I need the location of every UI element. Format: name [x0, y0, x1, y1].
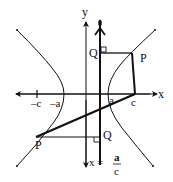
label-x-axis: x	[158, 87, 164, 101]
label-a: a	[109, 94, 114, 106]
right-angle-mark-upper	[101, 47, 106, 52]
label-P-lower: P	[35, 138, 42, 152]
label-neg-c: –c	[30, 97, 42, 109]
label-directrix-den: c	[114, 165, 119, 177]
label-c: c	[131, 96, 136, 108]
label-Q-upper: Q	[89, 46, 98, 60]
right-angle-mark-lower	[94, 137, 99, 142]
hyperbola-diagram: y x Q P –c –a a c Q P x = a c	[0, 0, 173, 182]
label-Q-lower: Q	[103, 128, 112, 142]
label-neg-a: –a	[49, 97, 61, 109]
label-directrix-lhs: x =	[89, 156, 103, 168]
segment-PS-upper	[132, 53, 135, 94]
label-y-axis: y	[82, 5, 88, 19]
label-directrix-num: a	[114, 151, 120, 163]
label-P-upper: P	[140, 51, 147, 65]
